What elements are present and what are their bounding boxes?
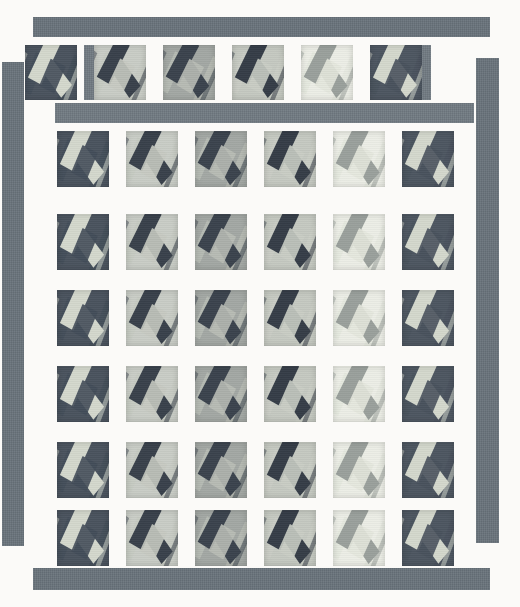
quilt-block-r7-c2 — [126, 510, 178, 566]
pinwheel-cross-icon — [126, 214, 178, 270]
pinwheel-cross-icon — [264, 442, 316, 498]
quilt-block-r1-c5 — [301, 45, 353, 100]
quilt-block-r1-c1 — [25, 45, 77, 100]
pinwheel-cross-icon — [402, 366, 454, 422]
pinwheel-cross-icon — [333, 214, 385, 270]
quilt-canvas — [0, 0, 520, 607]
pinwheel-cross-icon — [333, 131, 385, 187]
quilt-block-r3-c6 — [402, 214, 454, 270]
quilt-block-r2-c2 — [126, 131, 178, 187]
quilt-block-r4-c4 — [264, 290, 316, 346]
quilt-block-r7-c4 — [264, 510, 316, 566]
quilt-block-r2-c3 — [195, 131, 247, 187]
pinwheel-cross-icon — [333, 290, 385, 346]
bottom-border — [33, 568, 490, 590]
quilt-block-r3-c3 — [195, 214, 247, 270]
pinwheel-cross-icon — [402, 214, 454, 270]
quilt-block-r1-c4 — [232, 45, 284, 100]
pinwheel-cross-icon — [333, 442, 385, 498]
pinwheel-cross-icon — [25, 45, 77, 100]
pinwheel-cross-icon — [402, 442, 454, 498]
pinwheel-cross-icon — [126, 442, 178, 498]
quilt-block-r6-c6 — [402, 442, 454, 498]
quilt-block-r1-c3 — [163, 45, 215, 100]
quilt-block-r4-c6 — [402, 290, 454, 346]
quilt-block-r2-c1 — [57, 131, 109, 187]
quilt-block-r2-c5 — [333, 131, 385, 187]
sashing-row-1 — [55, 103, 474, 123]
pinwheel-cross-icon — [264, 366, 316, 422]
pinwheel-cross-icon — [94, 45, 146, 100]
pinwheel-cross-icon — [126, 366, 178, 422]
pinwheel-cross-icon — [126, 131, 178, 187]
pinwheel-cross-icon — [57, 510, 109, 566]
pinwheel-cross-icon — [264, 131, 316, 187]
pinwheel-cross-icon — [195, 131, 247, 187]
pinwheel-cross-icon — [126, 510, 178, 566]
pinwheel-cross-icon — [264, 290, 316, 346]
pinwheel-cross-icon — [163, 45, 215, 100]
quilt-block-r2-c4 — [264, 131, 316, 187]
quilt-block-r5-c3 — [195, 366, 247, 422]
quilt-block-r5-c6 — [402, 366, 454, 422]
pinwheel-cross-icon — [195, 290, 247, 346]
quilt-block-r6-c3 — [195, 442, 247, 498]
quilt-block-r6-c4 — [264, 442, 316, 498]
pinwheel-cross-icon — [402, 510, 454, 566]
pinwheel-cross-icon — [264, 510, 316, 566]
pinwheel-cross-icon — [195, 366, 247, 422]
pinwheel-cross-icon — [333, 510, 385, 566]
quilt-block-r7-c6 — [402, 510, 454, 566]
left-border — [2, 62, 24, 546]
pinwheel-cross-icon — [333, 366, 385, 422]
right-border — [476, 58, 499, 543]
pinwheel-cross-icon — [195, 510, 247, 566]
pinwheel-cross-icon — [57, 131, 109, 187]
quilt-block-r4-c5 — [333, 290, 385, 346]
quilt-block-r5-c2 — [126, 366, 178, 422]
quilt-block-r3-c4 — [264, 214, 316, 270]
quilt-block-r2-c6 — [402, 131, 454, 187]
pinwheel-cross-icon — [402, 290, 454, 346]
pinwheel-cross-icon — [195, 214, 247, 270]
quilt-block-r6-c2 — [126, 442, 178, 498]
pinwheel-cross-icon — [57, 366, 109, 422]
quilt-block-r4-c1 — [57, 290, 109, 346]
quilt-block-r7-c1 — [57, 510, 109, 566]
top-border — [33, 17, 490, 37]
quilt-block-r5-c4 — [264, 366, 316, 422]
pinwheel-cross-icon — [264, 214, 316, 270]
quilt-block-r3-c1 — [57, 214, 109, 270]
quilt-block-r5-c1 — [57, 366, 109, 422]
quilt-block-r6-c1 — [57, 442, 109, 498]
pinwheel-cross-icon — [402, 131, 454, 187]
quilt-block-r6-c5 — [333, 442, 385, 498]
quilt-block-r7-c5 — [333, 510, 385, 566]
pinwheel-cross-icon — [57, 214, 109, 270]
pinwheel-cross-icon — [301, 45, 353, 100]
pinwheel-cross-icon — [370, 45, 422, 100]
quilt-block-r5-c5 — [333, 366, 385, 422]
pinwheel-cross-icon — [126, 290, 178, 346]
pinwheel-cross-icon — [195, 442, 247, 498]
pinwheel-cross-icon — [57, 442, 109, 498]
pinwheel-cross-icon — [57, 290, 109, 346]
quilt-block-r4-c2 — [126, 290, 178, 346]
quilt-block-r4-c3 — [195, 290, 247, 346]
quilt-block-r3-c5 — [333, 214, 385, 270]
pinwheel-cross-icon — [232, 45, 284, 100]
quilt-block-r1-c2 — [94, 45, 146, 100]
quilt-block-r1-c6 — [370, 45, 422, 100]
quilt-block-r3-c2 — [126, 214, 178, 270]
quilt-block-r7-c3 — [195, 510, 247, 566]
